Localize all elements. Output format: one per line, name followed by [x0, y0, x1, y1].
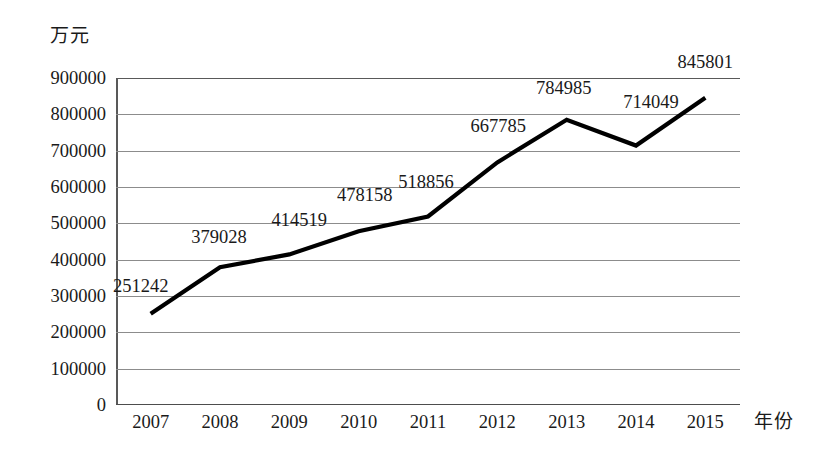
y-tick-label: 700000 [51, 142, 107, 161]
chart-canvas: 万元 9000008000007000006000005000004000003… [0, 0, 833, 475]
x-tick-label: 2012 [479, 413, 516, 432]
x-tick-label: 2013 [548, 413, 585, 432]
y-tick-label: 900000 [51, 69, 107, 88]
y-tick-label: 200000 [51, 323, 107, 342]
x-tick-label: 2009 [271, 413, 308, 432]
y-tick-label: 400000 [51, 251, 107, 270]
gridline [116, 260, 740, 261]
gridline [116, 223, 740, 224]
data-point-value-label: 518856 [398, 173, 454, 192]
data-point-value-label: 845801 [678, 52, 734, 71]
gridline [116, 114, 740, 115]
x-tick-label: 2010 [340, 413, 377, 432]
data-point-value-label: 414519 [272, 211, 328, 230]
x-axis-name-label: 年份 [754, 412, 794, 431]
gridline [116, 151, 740, 152]
y-axis-line [116, 78, 118, 405]
y-tick-label: 300000 [51, 287, 107, 306]
data-point-value-label: 667785 [471, 117, 527, 136]
y-tick-label: 800000 [51, 105, 107, 124]
y-tick-label: 0 [97, 396, 106, 415]
x-tick-label: 2008 [202, 413, 239, 432]
x-tick-label: 2011 [410, 413, 446, 432]
y-axis-tick-labels: 9000008000007000006000005000004000003000… [0, 0, 106, 475]
y-tick-label: 600000 [51, 178, 107, 197]
x-tick-label: 2007 [132, 413, 169, 432]
data-point-value-label: 379028 [191, 228, 247, 247]
y-tick-label: 500000 [51, 214, 107, 233]
data-point-value-label: 714049 [623, 92, 679, 111]
x-tick-label: 2014 [618, 413, 655, 432]
y-tick-label: 100000 [51, 360, 107, 379]
data-point-value-label: 251242 [113, 276, 169, 295]
data-point-value-label: 478158 [337, 186, 393, 205]
gridline [116, 78, 740, 79]
x-axis-line [116, 404, 740, 406]
x-tick-label: 2015 [687, 413, 724, 432]
gridline [116, 296, 740, 297]
data-point-value-label: 784985 [536, 79, 592, 98]
x-axis-tick-labels: 200720082009201020112012201320142015 [0, 413, 833, 439]
gridline [116, 369, 740, 370]
gridline [116, 332, 740, 333]
